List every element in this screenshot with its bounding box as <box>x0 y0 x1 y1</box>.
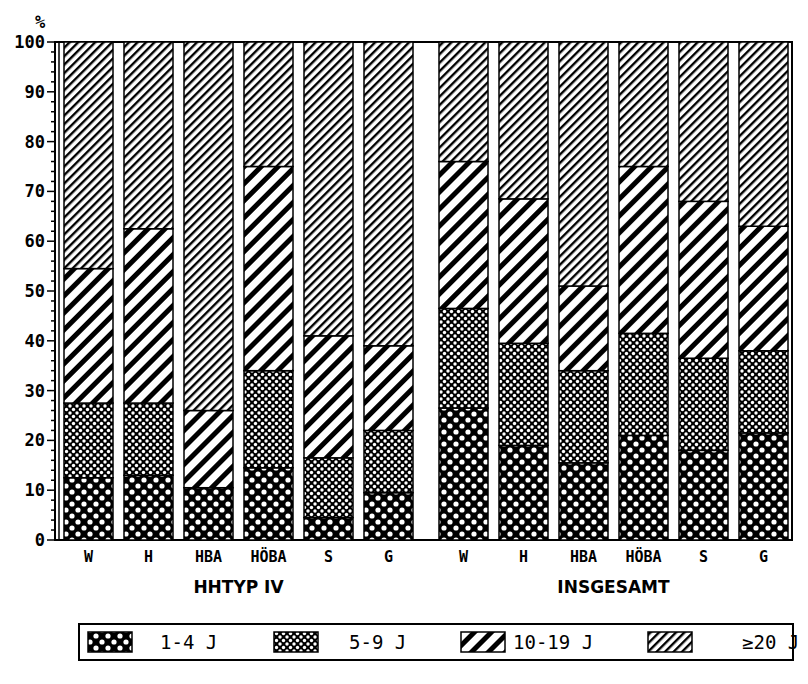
y-tick-label: 30 <box>25 381 45 401</box>
legend-item: 10-19 J <box>461 631 593 653</box>
bar-segment <box>439 162 488 309</box>
bar-hhtyp-iv-s <box>304 42 353 540</box>
bar-segment <box>64 478 113 540</box>
bar-segment <box>244 42 293 167</box>
x-category-label: G <box>759 548 768 566</box>
bar-segment <box>439 42 488 162</box>
bar-segment <box>184 411 233 488</box>
bar-insgesamt-h <box>499 42 548 540</box>
bar-hhtyp-iv-hba <box>184 42 233 540</box>
bar-insgesamt-hba <box>559 42 608 540</box>
y-tick-label: 50 <box>25 281 45 301</box>
legend-swatch <box>648 632 692 652</box>
legend-label: 1-4 J <box>160 631 217 653</box>
legend-swatch <box>274 632 318 652</box>
legend-label: 10-19 J <box>513 631 593 653</box>
x-category-label: HÖBA <box>625 547 661 566</box>
legend: 1-4 J5-9 J10-19 J≥20 J <box>79 624 799 660</box>
bar-hhtyp-iv-w <box>64 42 113 540</box>
bar-segment <box>124 42 173 229</box>
bar-segment <box>64 269 113 403</box>
bar-segment <box>499 343 548 445</box>
y-axis-unit: % <box>35 12 46 32</box>
y-tick-label: 20 <box>25 430 45 450</box>
y-tick-label: 10 <box>25 480 45 500</box>
bar-segment <box>304 518 353 540</box>
bar-segment <box>304 336 353 458</box>
bar-segment <box>439 408 488 540</box>
bar-insgesamt-g <box>739 42 788 540</box>
bar-segment <box>124 475 173 540</box>
bar-segment <box>499 42 548 199</box>
bar-segment <box>559 371 608 463</box>
bar-segment <box>244 371 293 468</box>
legend-label: 5-9 J <box>349 631 406 653</box>
y-tick-label: 70 <box>25 181 45 201</box>
x-category-label: G <box>384 548 393 566</box>
bar-segment <box>184 42 233 411</box>
bar-segment <box>559 463 608 540</box>
bar-segment <box>64 42 113 269</box>
bar-segment <box>364 42 413 346</box>
bar-segment <box>364 346 413 431</box>
bar-segment <box>244 468 293 540</box>
bar-segment <box>619 333 668 435</box>
bar-segment <box>499 199 548 343</box>
x-category-label: HBA <box>570 548 597 566</box>
y-tick-label: 60 <box>25 231 45 251</box>
x-category-label: H <box>144 548 153 566</box>
x-category-label: S <box>699 548 708 566</box>
bar-segment <box>364 430 413 492</box>
y-tick-label: 100 <box>14 32 45 52</box>
bar-segment <box>739 351 788 433</box>
bar-segment <box>304 42 353 336</box>
bar-segment <box>619 167 668 334</box>
bar-segment <box>364 493 413 540</box>
bar-insgesamt-w <box>439 42 488 540</box>
stacked-bar-chart: 0102030405060708090100% WHHBAHÖBASGHHTYP… <box>0 0 808 684</box>
bar-hhtyp-iv-h <box>124 42 173 540</box>
bar-segment <box>124 403 173 475</box>
bar-hhtyp-iv-g <box>364 42 413 540</box>
bar-segment <box>124 229 173 403</box>
bar-segment <box>244 167 293 371</box>
bar-segment <box>679 201 728 358</box>
bar-segment <box>739 42 788 226</box>
group-label: INSGESAMT <box>557 577 670 597</box>
bar-segment <box>619 435 668 540</box>
legend-swatch <box>88 632 132 652</box>
y-tick-label: 0 <box>35 530 45 550</box>
bar-segment <box>439 308 488 408</box>
bar-segment <box>184 488 233 540</box>
bar-segment <box>499 445 548 540</box>
bar-segment <box>679 450 728 540</box>
bar-hhtyp-iv-höba <box>244 42 293 540</box>
x-category-label: W <box>459 548 469 566</box>
x-category-label: H <box>519 548 528 566</box>
bar-insgesamt-höba <box>619 42 668 540</box>
legend-label: ≥20 J <box>742 631 799 653</box>
bars <box>64 42 788 540</box>
bar-segment <box>739 226 788 351</box>
bar-segment <box>304 458 353 518</box>
y-tick-label: 40 <box>25 331 45 351</box>
x-category-label: HBA <box>195 548 222 566</box>
y-tick-label: 80 <box>25 132 45 152</box>
x-category-label: S <box>324 548 333 566</box>
bar-segment <box>679 358 728 450</box>
bar-segment <box>679 42 728 201</box>
bar-segment <box>559 286 608 371</box>
bar-segment <box>619 42 668 167</box>
y-tick-label: 90 <box>25 82 45 102</box>
bar-segment <box>64 403 113 478</box>
bar-segment <box>739 433 788 540</box>
bar-segment <box>559 42 608 286</box>
x-category-label: HÖBA <box>250 547 286 566</box>
x-axis-labels: WHHBAHÖBASGHHTYP IVWHHBAHÖBASGINSGESAMT <box>84 547 768 597</box>
legend-swatch <box>461 632 505 652</box>
x-category-label: W <box>84 548 94 566</box>
group-label: HHTYP IV <box>193 577 284 597</box>
bar-insgesamt-s <box>679 42 728 540</box>
